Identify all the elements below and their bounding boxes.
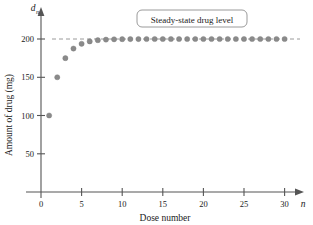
- data-point: [274, 36, 279, 41]
- data-point: [168, 36, 173, 41]
- data-point: [79, 41, 84, 46]
- data-point: [176, 36, 181, 41]
- steady-state-callout: Steady-state drug level: [137, 10, 247, 27]
- x-tick-label-10: 10: [118, 199, 127, 209]
- data-point: [128, 36, 133, 41]
- y-axis-tick-labels: 200 150 100 50: [21, 34, 34, 159]
- y-tick-label-100: 100: [21, 111, 34, 121]
- data-point: [266, 36, 271, 41]
- scatter-plot-svg: 200 150 100 50 0 5 10 15 20 25 30 d n: [0, 0, 313, 225]
- data-point: [47, 113, 52, 118]
- data-point: [63, 56, 68, 61]
- chart-figure: 200 150 100 50 0 5 10 15 20 25 30 d n: [0, 0, 313, 225]
- data-point: [120, 37, 125, 42]
- x-tick-label-15: 15: [159, 199, 168, 209]
- data-point: [87, 39, 92, 44]
- data-point: [282, 36, 287, 41]
- x-tick-label-5: 5: [79, 199, 83, 209]
- y-axis-title: Amount of drug (mg): [4, 74, 15, 156]
- x-axis-group: [26, 189, 304, 196]
- y-axis-variable-subscript-n: n: [36, 8, 39, 15]
- data-point: [55, 75, 60, 80]
- data-point: [225, 36, 230, 41]
- x-tick-label-20: 20: [199, 199, 208, 209]
- x-axis-arrowhead: [295, 189, 304, 196]
- data-point: [217, 36, 222, 41]
- data-point: [95, 38, 100, 43]
- data-point: [233, 36, 238, 41]
- y-axis-variable-d: d: [31, 3, 36, 13]
- data-point: [241, 36, 246, 41]
- y-tick-label-150: 150: [21, 72, 34, 82]
- data-point: [209, 36, 214, 41]
- y-tick-label-50: 50: [26, 149, 35, 159]
- x-axis-title: Dose number: [140, 213, 192, 223]
- data-point: [136, 36, 141, 41]
- data-point: [71, 46, 76, 51]
- callout-label: Steady-state drug level: [151, 15, 234, 25]
- data-point-layer: [47, 36, 288, 118]
- x-tick-label-25: 25: [240, 199, 249, 209]
- data-point: [144, 36, 149, 41]
- data-point: [201, 36, 206, 41]
- y-tick-label-200: 200: [21, 34, 34, 44]
- data-point: [193, 36, 198, 41]
- x-axis-variable-n: n: [301, 199, 306, 209]
- y-axis-variable-label: d n: [31, 3, 40, 15]
- data-point: [185, 36, 190, 41]
- x-tick-label-30: 30: [280, 199, 289, 209]
- data-point: [258, 36, 263, 41]
- data-point: [250, 36, 255, 41]
- data-point: [111, 37, 116, 42]
- y-axis-group: [38, 7, 45, 198]
- data-point: [160, 36, 165, 41]
- x-axis-tick-labels: 0 5 10 15 20 25 30: [39, 199, 289, 209]
- data-point: [103, 37, 108, 42]
- data-point: [152, 36, 157, 41]
- x-tick-label-0: 0: [39, 199, 43, 209]
